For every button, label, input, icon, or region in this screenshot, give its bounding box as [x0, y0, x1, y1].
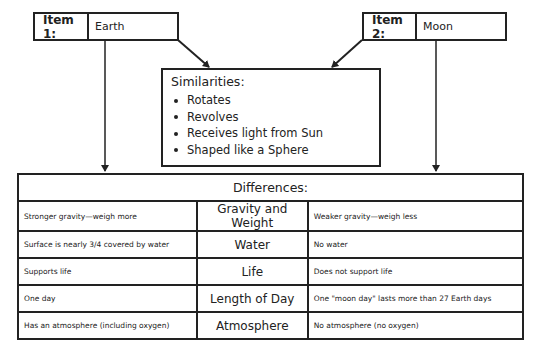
item1-box: Item 1: Earth [33, 12, 179, 41]
similarity-item: Receives light from Sun [171, 125, 371, 142]
item1-difference: One day [18, 285, 197, 312]
differences-title: Differences: [18, 174, 523, 201]
arrow-item2-to-similarities [332, 40, 362, 67]
similarity-item: Shaped like a Sphere [171, 142, 371, 159]
similarities-list: Rotates Revolves Receives light from Sun… [171, 92, 371, 158]
difference-category: Water [197, 231, 308, 258]
item2-difference: Weaker gravity—weigh less [308, 201, 523, 231]
item2-box: Item 2: Moon [362, 12, 507, 41]
item1-difference: Has an atmosphere (including oxygen) [18, 312, 197, 339]
item1-difference: Stronger gravity—weigh more [18, 201, 197, 231]
item2-difference: Does not support life [308, 258, 523, 285]
item2-difference: No atmosphere (no oxygen) [308, 312, 523, 339]
similarities-title: Similarities: [171, 74, 371, 89]
item2-label: Item 2: [364, 14, 417, 39]
item1-difference: Supports life [18, 258, 197, 285]
difference-category: Length of Day [197, 285, 308, 312]
difference-category: Gravity and Weight [197, 201, 308, 231]
similarity-item: Revolves [171, 109, 371, 126]
difference-category: Atmosphere [197, 312, 308, 339]
item2-difference: One "moon day" lasts more than 27 Earth … [308, 285, 523, 312]
table-row: Has an atmosphere (including oxygen) Atm… [18, 312, 523, 339]
similarities-box: Similarities: Rotates Revolves Receives … [161, 68, 381, 167]
table-row: Supports life Life Does not support life [18, 258, 523, 285]
similarity-item: Rotates [171, 92, 371, 109]
arrow-item1-to-similarities [178, 40, 209, 67]
differences-header-row: Differences: [18, 174, 523, 201]
table-row: One day Length of Day One "moon day" las… [18, 285, 523, 312]
item2-difference: No water [308, 231, 523, 258]
table-row: Stronger gravity—weigh more Gravity and … [18, 201, 523, 231]
item2-value: Moon [417, 14, 453, 39]
item1-difference: Surface is nearly 3/4 covered by water [18, 231, 197, 258]
differences-table: Differences: Stronger gravity—weigh more… [17, 173, 524, 340]
difference-category: Life [197, 258, 308, 285]
item1-value: Earth [89, 14, 125, 39]
item1-label: Item 1: [35, 14, 89, 39]
table-row: Surface is nearly 3/4 covered by water W… [18, 231, 523, 258]
